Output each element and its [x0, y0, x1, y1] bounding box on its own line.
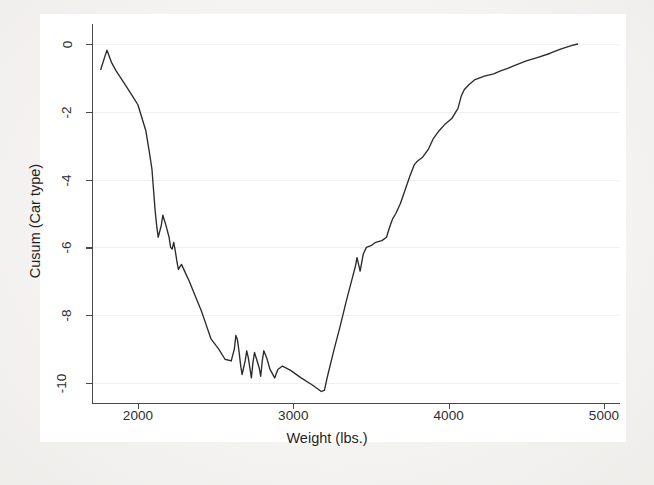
y-tick-label: 0: [0, 35, 72, 53]
y-axis-title: Cusum (Car type): [27, 101, 43, 341]
x-tick-label: 2000: [123, 408, 153, 423]
figure-container: 2000300040005000 0-2-4-6-8-10 Weight (lb…: [0, 0, 654, 485]
x-tick-label: 4000: [433, 408, 463, 423]
cusum-line: [101, 44, 578, 391]
x-tick-label: 3000: [278, 408, 308, 423]
y-tick-label: -10: [0, 374, 72, 392]
x-tick-label: 5000: [589, 408, 619, 423]
x-axis-title: Weight (lbs.): [0, 430, 654, 446]
data-series-layer: [0, 0, 654, 485]
